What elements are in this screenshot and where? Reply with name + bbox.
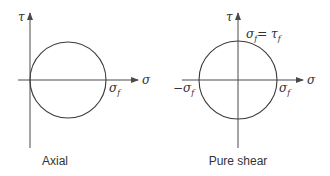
axial-panel: τ σ σf Axial: [18, 10, 151, 168]
sigma-f-label: σf: [109, 81, 122, 97]
tau-axis-label: τ: [18, 10, 25, 24]
tau-axis-label: τ: [226, 10, 233, 24]
neg-sigma-f-label: −σf: [173, 81, 196, 97]
sigma-axis-label: σ: [307, 73, 316, 87]
sigma-axis-label: σ: [142, 73, 151, 87]
sigma-f-equals-tau-f-label: σf= τf: [246, 27, 283, 43]
pure-shear-panel: τ σ σf= τf −σf σf Pure shear: [173, 10, 316, 168]
axial-caption: Axial: [42, 154, 68, 168]
mohr-circle-diagrams: τ σ σf Axial τ σ σf= τf −σf σf Pure shea…: [0, 0, 330, 176]
sigma-f-label: σf: [279, 81, 292, 97]
pure-shear-caption: Pure shear: [209, 154, 268, 168]
